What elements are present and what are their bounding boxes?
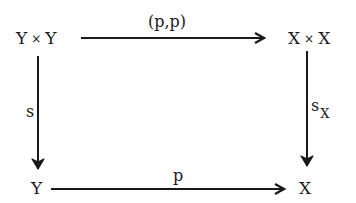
label-left-arrow: s bbox=[26, 104, 34, 120]
node-top-right-factor-1: X bbox=[288, 28, 300, 48]
node-top-left-factor-1: Y bbox=[16, 28, 27, 48]
label-bottom-arrow: p bbox=[173, 168, 183, 184]
label-right-arrow: sX bbox=[311, 98, 328, 114]
node-top-right-product: X×X bbox=[288, 30, 330, 47]
product-symbol: × bbox=[304, 32, 314, 46]
label-right-main: s bbox=[311, 96, 319, 115]
label-right-subscript: X bbox=[320, 106, 329, 121]
node-top-left-product: Y×Y bbox=[16, 30, 57, 47]
node-bottom-right: X bbox=[299, 180, 311, 197]
node-bottom-left: Y bbox=[31, 180, 42, 197]
label-top-arrow: (p,p) bbox=[148, 14, 186, 30]
product-symbol: × bbox=[31, 32, 41, 46]
node-top-right-factor-2: X bbox=[318, 28, 330, 48]
commutative-diagram: Y×Y X×X Y X (p,p) s sX p bbox=[0, 0, 356, 203]
node-top-left-factor-2: Y bbox=[45, 28, 56, 48]
